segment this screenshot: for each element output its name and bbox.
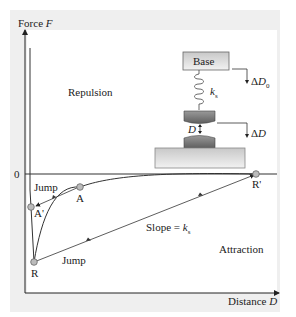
jump-lower-label: Jump <box>62 255 86 266</box>
repulsion-label: Repulsion <box>68 87 113 98</box>
spring-coil <box>195 70 204 110</box>
gap-arrow-up <box>198 124 202 127</box>
point-R-prime-label: R' <box>252 179 261 190</box>
point-R-prime <box>253 171 260 178</box>
delta-d0-arrow <box>245 80 249 84</box>
spring-constant-label: ks <box>210 86 218 100</box>
lower-tip <box>184 136 215 149</box>
upper-tip <box>184 111 215 124</box>
delta-d-label: ΔD <box>251 128 266 139</box>
delta-d-arrow <box>245 134 249 138</box>
zero-label: 0 <box>14 169 20 180</box>
repulsion-wall-curve <box>30 48 34 262</box>
base-label: Base <box>193 56 214 67</box>
jump-upper-label: Jump <box>34 182 58 193</box>
slope-mid-arrow <box>86 238 91 242</box>
slope-mid-arrow-2 <box>198 193 203 197</box>
x-axis-label: Distance D <box>228 296 277 307</box>
gap-arrow-down <box>198 131 202 134</box>
sample-stage <box>155 148 245 168</box>
point-A <box>77 184 84 191</box>
y-axis-label: Force F <box>18 18 53 29</box>
point-R <box>31 259 38 266</box>
gap-label: D <box>188 124 196 135</box>
delta-d0-label: ΔD0 <box>251 76 270 90</box>
attraction-label: Attraction <box>219 244 264 255</box>
force-distance-diagram <box>0 0 296 317</box>
point-R-label: R <box>31 268 38 279</box>
point-A-prime-label: A' <box>34 208 44 219</box>
delta-d0-leader <box>232 69 247 80</box>
point-A-label: A <box>76 193 84 204</box>
slope-label: Slope = ks <box>146 222 190 236</box>
delta-d-leader <box>217 123 247 134</box>
